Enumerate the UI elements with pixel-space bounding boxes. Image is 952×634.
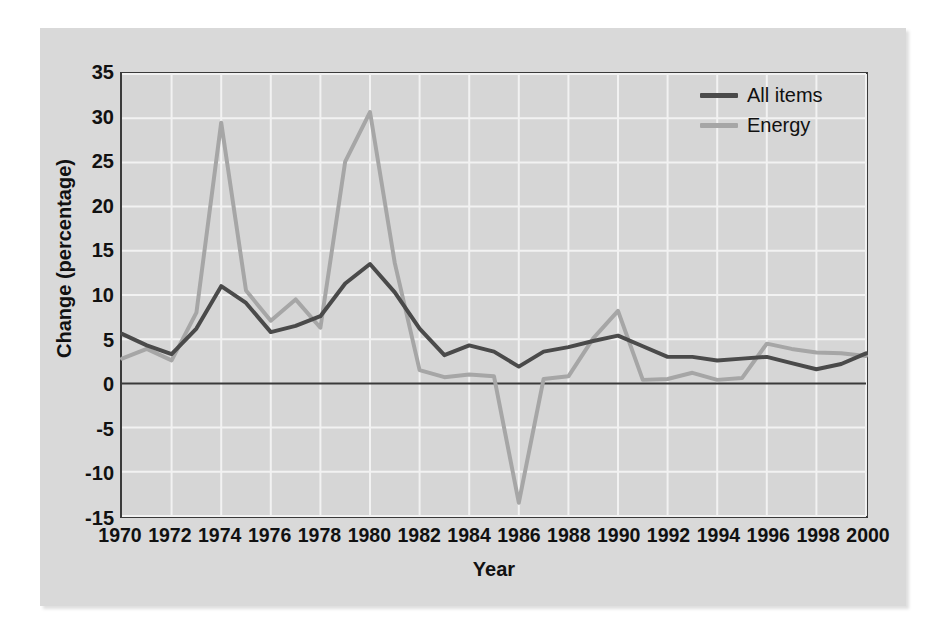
x-axis-tick-label: 1986	[497, 524, 540, 547]
y-axis-title-container: Change (percentage)	[14, 72, 44, 518]
x-axis-tick-label: 1998	[796, 524, 839, 547]
x-axis-tick-label: 1976	[248, 524, 291, 547]
chart-legend: All itemsEnergy	[700, 84, 823, 136]
y-axis-tick-label: 35	[56, 61, 114, 84]
y-axis-tick-label: 20	[56, 194, 114, 217]
x-axis-tick-label: 1980	[348, 524, 391, 547]
chart-figure: Change (percentage) 35302520151050-5-10-…	[0, 0, 952, 634]
x-axis-tick-label: 1970	[98, 524, 141, 547]
x-axis-tick-label: 1978	[298, 524, 341, 547]
x-axis-tick-label: 1994	[697, 524, 740, 547]
series-line-energy	[122, 112, 866, 503]
x-axis-tick-label: 1974	[198, 524, 241, 547]
y-axis-tick-label: -5	[56, 417, 114, 440]
legend-item-label: Energy	[747, 115, 810, 135]
series-line-all-items	[122, 264, 866, 369]
legend-color-swatch	[700, 123, 738, 128]
legend-item-label: All items	[747, 85, 823, 105]
x-axis-tick-labels: 1970197219741976197819801982198419861988…	[120, 524, 868, 554]
y-axis-tick-label: 30	[56, 105, 114, 128]
y-axis-tick-labels: 35302520151050-5-10-15	[52, 72, 114, 518]
y-axis-tick-label: -10	[56, 462, 114, 485]
y-axis-tick-label: 25	[56, 150, 114, 173]
x-axis-tick-label: 1996	[747, 524, 790, 547]
x-axis-tick-label: 1990	[597, 524, 640, 547]
x-axis-tick-label: 1992	[647, 524, 690, 547]
x-axis-tick-label: 1988	[547, 524, 590, 547]
data-series-layer	[122, 74, 866, 516]
y-axis-tick-label: 15	[56, 239, 114, 262]
plot-area	[120, 72, 868, 518]
y-axis-tick-label: 0	[56, 373, 114, 396]
x-axis-tick-label: 2000	[846, 524, 889, 547]
legend-item: All items	[700, 84, 823, 106]
x-axis-title: Year	[120, 558, 868, 581]
x-axis-tick-label: 1982	[397, 524, 440, 547]
x-axis-tick-label: 1984	[447, 524, 490, 547]
y-axis-tick-label: 10	[56, 284, 114, 307]
y-axis-tick-label: 5	[56, 328, 114, 351]
x-axis-tick-label: 1972	[148, 524, 191, 547]
legend-color-swatch	[700, 93, 738, 98]
legend-item: Energy	[700, 114, 823, 136]
